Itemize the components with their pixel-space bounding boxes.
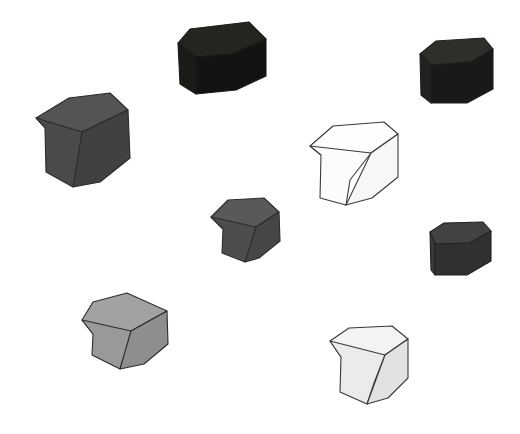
cube-top-right[interactable]: Top right cube [420,38,493,103]
cubes-scene: Top middle cubeTop right cubeLeft large … [0,0,520,434]
cubes-canvas: Top middle cubeTop right cubeLeft large … [0,0,520,434]
